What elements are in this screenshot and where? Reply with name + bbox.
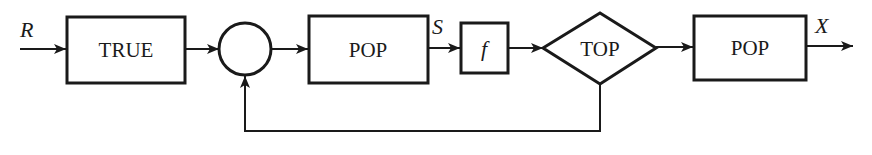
pop-block-2-label: POP bbox=[731, 36, 770, 60]
pop-block-1: POP bbox=[309, 16, 428, 83]
top-decision: TOP bbox=[543, 13, 656, 84]
intermediate-signal-label-s: S bbox=[432, 14, 443, 39]
top-decision-label: TOP bbox=[580, 37, 619, 61]
summing-junction bbox=[219, 23, 271, 75]
input-signal-label-r: R bbox=[19, 17, 34, 42]
pop-block-2: POP bbox=[694, 16, 806, 80]
f-block: f bbox=[461, 23, 508, 73]
f-block-label: f bbox=[481, 36, 490, 61]
true-block-label: TRUE bbox=[99, 38, 154, 62]
block-diagram: R TRUE POP S f TOP POP X bbox=[0, 0, 872, 155]
output-signal-label-x: X bbox=[814, 13, 830, 38]
true-block: TRUE bbox=[67, 17, 185, 83]
pop-block-1-label: POP bbox=[349, 38, 388, 62]
